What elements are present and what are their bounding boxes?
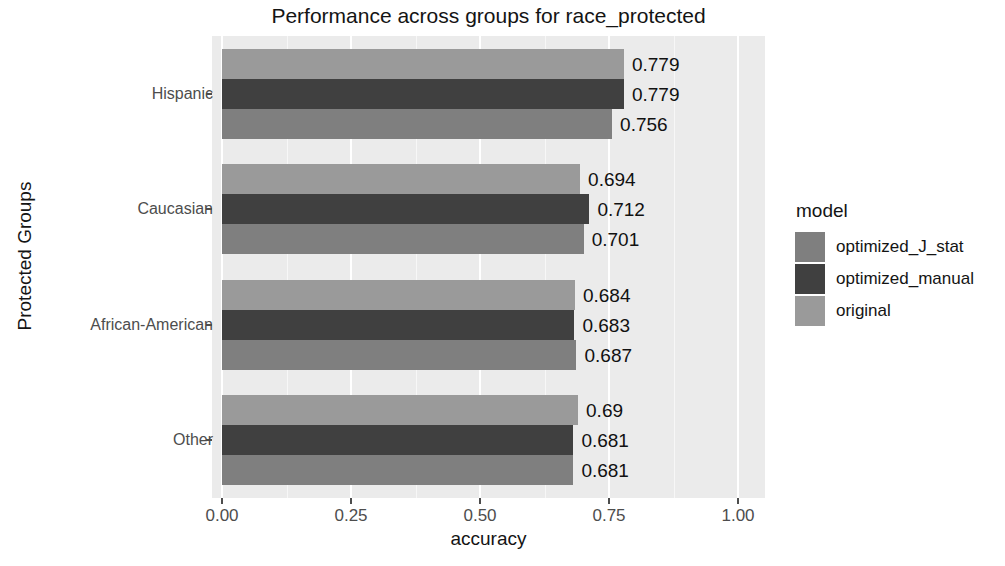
x-tick-label: 0.25 — [334, 506, 367, 526]
bar-value-label: 0.712 — [597, 200, 645, 219]
legend-item-label: optimized_J_stat — [836, 237, 964, 257]
y-tick-label: Caucasian — [137, 200, 213, 218]
legend-swatch-icon — [795, 232, 825, 262]
y-tick-mark — [206, 324, 212, 326]
legend-title: model — [795, 200, 974, 222]
x-tick-mark — [350, 498, 352, 504]
bar-value-label: 0.779 — [632, 85, 680, 104]
legend-item-label: original — [836, 301, 891, 321]
bar-value-label: 0.687 — [584, 346, 632, 365]
page-title: Performance across groups for race_prote… — [212, 4, 765, 28]
bar — [222, 395, 578, 425]
bar-value-label: 0.681 — [581, 431, 629, 450]
x-tick-label: 0.50 — [463, 506, 496, 526]
bar-value-label: 0.779 — [632, 55, 680, 74]
gridline-major — [737, 36, 739, 498]
legend: model optimized_J_statoptimized_manualor… — [795, 200, 974, 328]
x-tick-label: 0.00 — [205, 506, 238, 526]
bar — [222, 79, 624, 109]
x-tick-label: 0.75 — [592, 506, 625, 526]
bar-value-label: 0.694 — [588, 170, 636, 189]
bar — [222, 455, 573, 485]
legend-item[interactable]: optimized_manual — [795, 264, 974, 294]
bar-value-label: 0.681 — [581, 461, 629, 480]
y-tick-mark — [206, 439, 212, 441]
legend-item[interactable]: original — [795, 296, 974, 326]
legend-swatch-icon — [795, 296, 825, 326]
bar-value-label: 0.69 — [586, 401, 623, 420]
legend-item-label: optimized_manual — [836, 269, 974, 289]
y-tick-mark — [206, 208, 212, 210]
legend-item[interactable]: optimized_J_stat — [795, 232, 974, 262]
bar — [222, 164, 580, 194]
y-tick-mark — [206, 93, 212, 95]
bar — [222, 310, 574, 340]
bar — [222, 340, 576, 370]
x-axis-title: accuracy — [212, 528, 765, 550]
x-tick-label: 1.00 — [721, 506, 754, 526]
bar-value-label: 0.684 — [583, 286, 631, 305]
chart-figure: Performance across groups for race_prote… — [0, 0, 1005, 566]
bar-value-label: 0.756 — [620, 115, 668, 134]
bar — [222, 280, 575, 310]
bar — [222, 49, 624, 79]
bar — [222, 109, 612, 139]
legend-swatch-icon — [795, 264, 825, 294]
bar-value-label: 0.683 — [582, 316, 630, 335]
bar — [222, 425, 573, 455]
bar-value-label: 0.701 — [592, 230, 640, 249]
y-tick-label: Hispanic — [152, 85, 213, 103]
bar — [222, 194, 589, 224]
x-tick-mark — [737, 498, 739, 504]
y-axis-title: Protected Groups — [14, 156, 36, 356]
plot-panel: 0.7790.7790.7560.6940.7120.7010.6840.683… — [212, 36, 765, 498]
legend-items: optimized_J_statoptimized_manualoriginal — [795, 232, 974, 326]
x-tick-mark — [221, 498, 223, 504]
bar — [222, 224, 584, 254]
gridline-minor — [674, 36, 675, 498]
x-tick-mark — [608, 498, 610, 504]
y-tick-label: African-American — [90, 316, 213, 334]
x-tick-mark — [479, 498, 481, 504]
